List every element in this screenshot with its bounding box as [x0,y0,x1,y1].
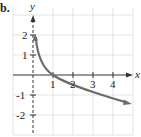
x-axis-label: x [135,69,140,80]
x-tick: 1 [50,79,56,90]
y-axis-arrow-icon [31,15,36,22]
x-tick: 3 [90,79,96,90]
x-axis-arrow-icon [126,73,133,78]
y-tick: -2 [16,110,25,121]
y-axis-label: y [30,1,35,12]
curve-arrow-right-icon [123,100,132,106]
grid [13,8,133,135]
y-tick: -1 [16,90,25,101]
y-tick: 2 [22,30,28,41]
y-tick: 1 [22,50,28,61]
x-tick: 2 [70,79,76,90]
x-tick: 4 [110,79,116,90]
